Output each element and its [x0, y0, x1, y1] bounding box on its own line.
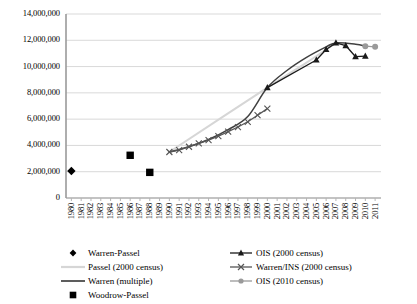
legend-marker [60, 288, 86, 302]
legend-column-right: OIS (2000 census)Warren/INS (2000 census… [228, 246, 410, 288]
legend-column-left: Warren-PasselPassel (2000 census)Warren … [60, 246, 230, 302]
x-axis-tick-label: 1985 [116, 203, 125, 219]
x-axis-tick-label: 1998 [243, 203, 252, 219]
chart-legend: Warren-PasselPassel (2000 census)Warren … [60, 246, 410, 302]
legend-marker [60, 260, 86, 274]
legend-marker [60, 274, 86, 288]
x-axis-tick-label: 1999 [253, 203, 262, 219]
legend-item[interactable]: Warren (multiple) [60, 274, 230, 288]
legend-item-label: Woodrow-Passel [86, 288, 149, 302]
legend-marker-icon [60, 260, 86, 274]
legend-marker-icon [60, 288, 86, 302]
legend-marker [228, 274, 254, 288]
legend-marker-icon [60, 246, 86, 260]
x-axis-ticks: 1980198119821983198419851986198719881989… [0, 0, 417, 214]
x-axis-tick-label: 2005 [312, 203, 321, 219]
x-axis-tick-label: 1994 [204, 203, 213, 219]
legend-item-label: Warren/INS (2000 census) [254, 260, 352, 274]
x-axis-tick-label: 2011 [371, 203, 380, 219]
x-axis-tick-label: 1993 [194, 203, 203, 219]
legend-marker [60, 246, 86, 260]
legend-item[interactable]: Woodrow-Passel [60, 288, 230, 302]
x-axis-tick-label: 2000 [263, 203, 272, 219]
legend-item-label: Warren-Passel [86, 246, 140, 260]
x-axis-tick-label: 2010 [361, 203, 370, 219]
x-axis-tick-label: 1990 [165, 203, 174, 219]
legend-item-label: OIS (2010 census) [254, 274, 323, 288]
legend-marker [228, 260, 254, 274]
legend-item[interactable]: OIS (2010 census) [228, 274, 410, 288]
x-axis-tick-label: 1984 [106, 203, 115, 219]
legend-item[interactable]: Warren/INS (2000 census) [228, 260, 410, 274]
legend-marker-icon [228, 260, 254, 274]
legend-item-label: Warren (multiple) [86, 274, 153, 288]
x-axis-tick-label: 1989 [155, 203, 164, 219]
chart-container: 02,000,0004,000,0006,000,0008,000,00010,… [0, 0, 417, 304]
x-axis-tick-label: 1988 [145, 203, 154, 219]
legend-item[interactable]: Warren-Passel [60, 246, 230, 260]
x-axis-tick-label: 2009 [351, 203, 360, 219]
legend-marker-icon [228, 246, 254, 260]
x-axis-tick-label: 1983 [96, 203, 105, 219]
legend-marker-icon [228, 274, 254, 288]
x-axis-tick-label: 1995 [214, 203, 223, 219]
legend-item[interactable]: Passel (2000 census) [60, 260, 230, 274]
legend-item-label: Passel (2000 census) [86, 260, 163, 274]
x-axis-tick-label: 1980 [67, 203, 76, 219]
x-axis-tick-label: 2003 [292, 203, 301, 219]
x-axis-tick-label: 2008 [341, 203, 350, 219]
legend-item-label: OIS (2000 census) [254, 246, 323, 260]
legend-marker [228, 246, 254, 260]
legend-marker-icon [60, 274, 86, 288]
x-axis-tick-label: 2004 [302, 203, 311, 219]
legend-item[interactable]: OIS (2000 census) [228, 246, 410, 260]
